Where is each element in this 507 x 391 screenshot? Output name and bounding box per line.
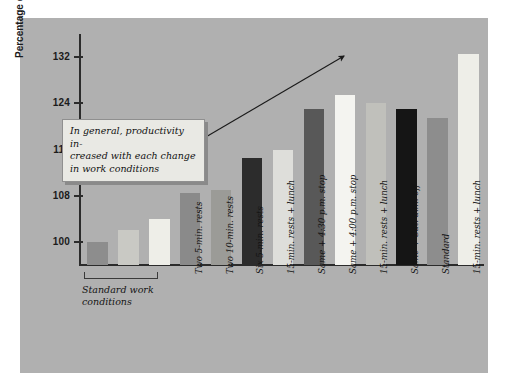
annotation-callout-text: In general, productivity in- creased wit… bbox=[70, 125, 197, 175]
category-label: Same + 4:30 p.m. stop bbox=[317, 175, 327, 274]
category-label: 15-min. rests + lunch bbox=[472, 180, 482, 274]
figure: Percentage of standard output 1001081161… bbox=[0, 0, 507, 391]
category-label: 15-min. rests + lunch bbox=[286, 180, 296, 274]
bar bbox=[118, 230, 138, 265]
category-label: 15-min. rests + lunch bbox=[379, 180, 389, 274]
chart-panel: Percentage of standard output 1001081161… bbox=[20, 18, 488, 373]
category-label: Standard bbox=[441, 234, 451, 274]
category-label: Two 5-min. rests bbox=[194, 202, 204, 274]
y-tick-label: 108 bbox=[28, 190, 70, 201]
category-label: Same + 4:00 p.m. stop bbox=[348, 175, 358, 274]
y-tick-label: 132 bbox=[28, 51, 70, 62]
category-label: Same + Sat. a.m. off bbox=[410, 184, 420, 274]
baseline-group-label: Standard work conditions bbox=[82, 284, 182, 308]
bar bbox=[149, 219, 169, 265]
baseline-group-bracket bbox=[84, 272, 158, 279]
y-tick-label: 100 bbox=[28, 236, 70, 247]
category-label: Two 10-min. rests bbox=[225, 196, 235, 274]
bar bbox=[87, 242, 107, 265]
annotation-callout: In general, productivity in- creased wit… bbox=[62, 119, 205, 182]
category-label: Six 5-min. rests bbox=[255, 206, 265, 274]
y-tick-label: 124 bbox=[28, 97, 70, 108]
